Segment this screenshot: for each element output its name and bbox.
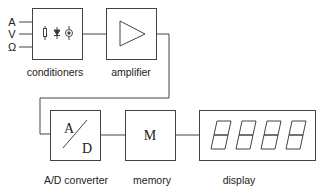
adc-symbol-a: A <box>64 121 75 136</box>
input-label-ohms: Ω <box>8 41 16 53</box>
adc-label: A/D converter <box>44 174 108 186</box>
adc-block <box>51 111 101 161</box>
seven-segment-digits <box>211 121 306 149</box>
input-label-amps: A <box>8 16 15 28</box>
memory-symbol: M <box>144 128 157 143</box>
memory-label: memory <box>133 174 171 186</box>
amplifier-block <box>107 9 157 60</box>
amplifier-label: amplifier <box>111 66 151 78</box>
adc-symbol-d: D <box>82 141 92 156</box>
conditioners-label: conditioners <box>27 66 84 78</box>
input-label-volts: V <box>8 28 15 40</box>
display-label: display <box>223 174 256 186</box>
amplifier-triangle-icon <box>120 21 145 46</box>
block-diagram: A D M <box>0 0 326 196</box>
